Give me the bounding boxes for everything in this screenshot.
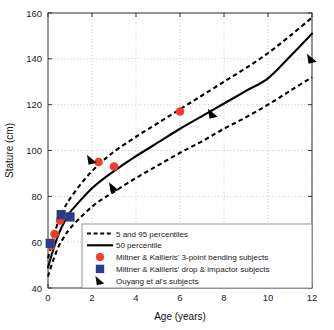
y-tick-label: 140: [26, 53, 42, 64]
legend-blue-square-icon: [96, 265, 104, 273]
blue-square-marker: [57, 210, 66, 219]
blue-square-marker: [65, 212, 74, 221]
chart-legend: 5 and 95 percentiles50 percentileMiltner…: [82, 224, 312, 288]
red-circle-marker: [50, 230, 59, 239]
y-tick-label: 80: [31, 191, 42, 202]
x-tick-label: 0: [45, 292, 50, 303]
stature-vs-age-chart: 024681012406080100120140160 Age (years)S…: [0, 0, 334, 330]
legend-entry-label: Ouyang et al's subjects: [116, 277, 198, 286]
legend-entry-label: 5 and 95 percentiles: [116, 230, 188, 239]
x-tick-label: 6: [177, 292, 182, 303]
x-tick-label: 8: [221, 292, 226, 303]
legend-red-circle-icon: [96, 253, 104, 261]
y-tick-label: 160: [26, 8, 42, 19]
y-tick-label: 60: [31, 237, 42, 248]
y-tick-label: 100: [26, 145, 42, 156]
legend-entry-label: Miltner & Kallieris' drop & impactor sub…: [116, 265, 270, 274]
y-tick-label: 120: [26, 99, 42, 110]
x-axis-title: Age (years): [154, 311, 206, 322]
red-circle-marker: [110, 162, 119, 171]
blue-square-marker: [46, 239, 55, 248]
x-tick-label: 2: [89, 292, 94, 303]
legend-entry-label: Miltner & Kallieris' 3-point bending sub…: [116, 253, 268, 262]
y-tick-label: 40: [31, 283, 42, 294]
x-tick-label: 4: [133, 292, 138, 303]
y-axis-title: Stature (cm): [4, 123, 15, 178]
red-circle-marker: [176, 107, 185, 116]
black-triangle-marker: [109, 182, 119, 192]
legend-entry-label: 50 percentile: [116, 241, 162, 250]
x-tick-label: 10: [263, 292, 274, 303]
chart-canvas: 024681012406080100120140160 Age (years)S…: [0, 0, 334, 330]
x-tick-label: 12: [307, 292, 318, 303]
